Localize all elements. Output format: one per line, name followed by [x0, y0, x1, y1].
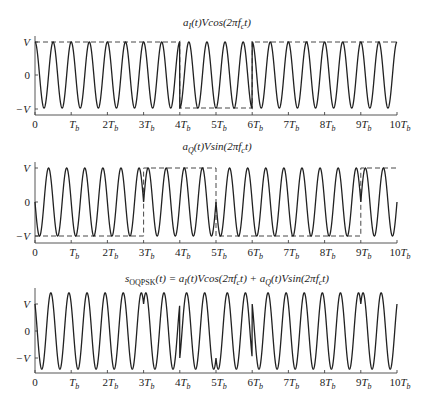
x-tick-label: 5Tb [211, 376, 227, 391]
x-tick-label: 4Tb [175, 246, 191, 261]
x-tick-label: 8Tb [320, 246, 336, 261]
x-tick-label: 3Tb [139, 118, 155, 133]
x-tick-label: 6Tb [247, 376, 263, 391]
x-tick-label: 0 [32, 118, 38, 130]
x-tick-label: 5Tb [211, 246, 227, 261]
y-tick-label: −V [16, 352, 31, 364]
y-tick-label: V [23, 162, 31, 174]
x-tick-label: 10Tb [389, 376, 410, 391]
y-axis-labels-q: V0−V [16, 162, 31, 242]
y-tick-label: V [23, 36, 31, 48]
x-tick-label: 0 [32, 376, 38, 388]
x-tick-label: Tb [69, 376, 79, 391]
x-tick-label: 7Tb [284, 118, 300, 133]
envelope-dashed-i [35, 42, 397, 108]
x-tick-label: 4Tb [175, 376, 191, 391]
x-tick-label: Tb [69, 246, 79, 261]
x-tick-label: 9Tb [356, 246, 372, 261]
x-tick-label: 9Tb [356, 118, 372, 133]
x-tick-label: 8Tb [320, 376, 336, 391]
y-tick-label: −V [16, 230, 31, 242]
y-tick-label: V [23, 298, 31, 310]
x-tick-label: 3Tb [139, 376, 155, 391]
x-tick-label: 2Tb [103, 118, 119, 133]
x-axis-labels-oqpsk: 0Tb2Tb3Tb4Tb5Tb6Tb7Tb8Tb9Tb10Tb [32, 376, 410, 391]
x-tick-label: 0 [32, 246, 38, 258]
x-tick-label: 7Tb [284, 246, 300, 261]
panel-title-q: aQ(t)Vsin(2πfct) [182, 140, 252, 155]
x-tick-label: 6Tb [247, 246, 263, 261]
x-tick-label: 8Tb [320, 118, 336, 133]
x-tick-label: 5Tb [211, 118, 227, 133]
x-axis-labels-q: 0Tb2Tb3Tb4Tb5Tb6Tb7Tb8Tb9Tb10Tb [32, 246, 410, 261]
y-tick-label: −V [16, 103, 31, 115]
y-tick-label: 0 [25, 69, 31, 81]
oqpsk-waveform-figure: aI(t)Vcos(2πfct) V0−V 0Tb2Tb3Tb4Tb5Tb6Tb… [0, 0, 435, 401]
x-tick-label: 9Tb [356, 376, 372, 391]
y-axis-labels-oqpsk: V0−V [16, 298, 31, 364]
panel-title-oqpsk: sOQPSK(t) = aI(t)Vcos(2πfct) + aQ(t)Vsin… [125, 272, 329, 287]
axes-i [35, 36, 397, 115]
y-tick-label: 0 [25, 196, 31, 208]
x-tick-label: Tb [69, 118, 79, 133]
panel-title-i: aI(t)Vcos(2πfct) [183, 16, 251, 31]
panel-oqpsk-sum: sOQPSK(t) = aI(t)Vcos(2πfct) + aQ(t)Vsin… [16, 272, 411, 391]
waveform-i [35, 42, 397, 108]
x-tick-label: 3Tb [139, 246, 155, 261]
x-tick-label: 4Tb [175, 118, 191, 133]
x-tick-label: 2Tb [103, 376, 119, 391]
waveform-oqpsk [35, 293, 397, 369]
y-tick-label: 0 [25, 325, 31, 337]
x-tick-label: 10Tb [389, 118, 410, 133]
y-axis-labels-i: V0−V [16, 36, 31, 115]
x-tick-label: 10Tb [389, 246, 410, 261]
x-tick-label: 2Tb [103, 246, 119, 261]
panel-q-channel: aQ(t)Vsin(2πfct) V0−V 0Tb2Tb3Tb4Tb5Tb6Tb… [16, 140, 411, 261]
x-tick-label: 7Tb [284, 376, 300, 391]
x-axis-labels-i: 0Tb2Tb3Tb4Tb5Tb6Tb7Tb8Tb9Tb10Tb [32, 118, 410, 133]
panel-i-channel: aI(t)Vcos(2πfct) V0−V 0Tb2Tb3Tb4Tb5Tb6Tb… [16, 16, 411, 133]
x-tick-label: 6Tb [247, 118, 263, 133]
